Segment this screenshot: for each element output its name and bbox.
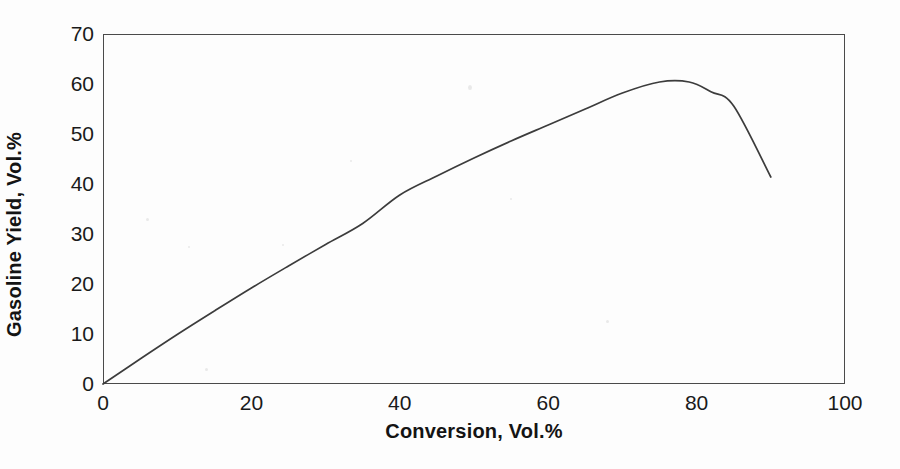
y-tick-label: 40 [50, 173, 94, 194]
x-tick-label: 100 [815, 392, 875, 413]
x-axis-tick-labels: 020406080100 [0, 392, 900, 422]
x-axis-title: Conversion, Vol.% [103, 420, 845, 443]
y-tick-label: 60 [50, 73, 94, 94]
y-tick-label: 70 [50, 23, 94, 44]
x-tick-label: 80 [667, 392, 727, 413]
y-tick-label: 30 [50, 223, 94, 244]
x-tick-label: 60 [518, 392, 578, 413]
x-tick-label: 0 [73, 392, 133, 413]
plot-area [103, 34, 845, 384]
y-tick-label: 20 [50, 273, 94, 294]
x-tick-label: 20 [221, 392, 281, 413]
y-tick-label: 0 [50, 373, 94, 394]
y-tick-label: 50 [50, 123, 94, 144]
gasoline-yield-curve [103, 81, 771, 384]
data-curve-layer [103, 34, 845, 384]
y-axis-title-text: Gasoline Yield, Vol.% [3, 132, 26, 337]
y-tick-label: 10 [50, 323, 94, 344]
chart-figure: Gasoline Yield, Vol.% 010203040506070 02… [0, 0, 900, 469]
x-tick-label: 40 [370, 392, 430, 413]
